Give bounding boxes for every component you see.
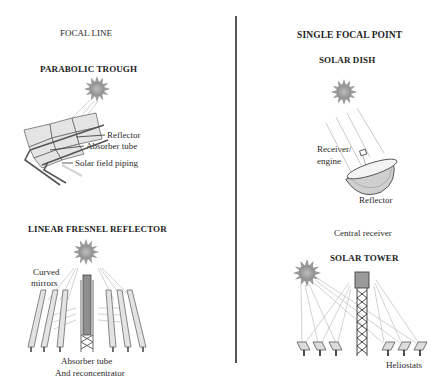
- linear-fresnel-illustration: [28, 239, 146, 352]
- central-receiver-box: [355, 272, 369, 288]
- solar-dish-illustration: [326, 79, 401, 201]
- parabolic-trough-illustration: [24, 76, 110, 185]
- solar-tower-illustration: [293, 259, 427, 356]
- sun-icon: [331, 79, 357, 105]
- sun-icon: [84, 76, 110, 102]
- diagram-artwork: [0, 0, 443, 391]
- sun-icon: [293, 259, 321, 287]
- sun-icon: [73, 239, 99, 265]
